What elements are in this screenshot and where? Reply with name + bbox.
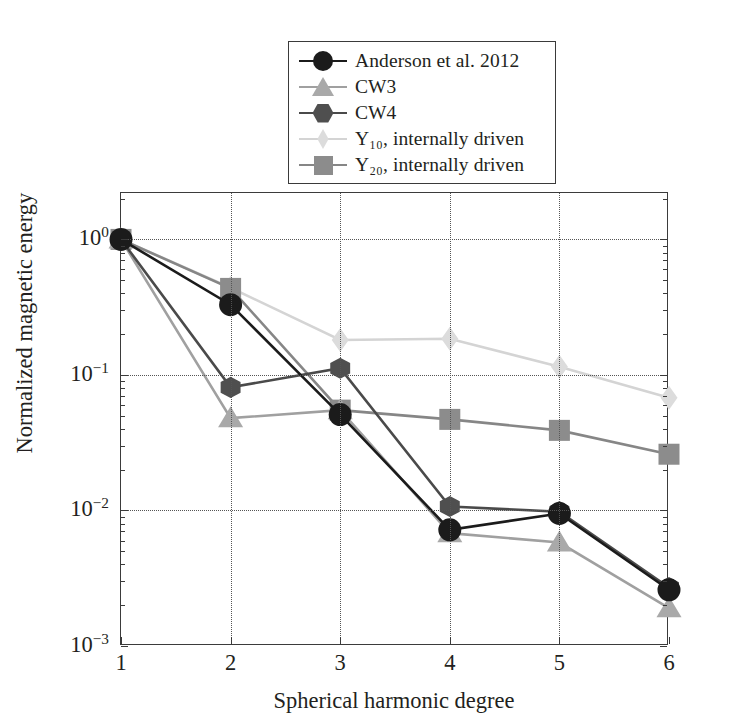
y-axis-minor-tick <box>121 199 125 200</box>
y-gridline <box>121 375 667 376</box>
y-axis-minor-tick <box>663 310 667 311</box>
x-gridline <box>340 193 341 644</box>
y-axis-minor-tick <box>663 405 667 406</box>
y-gridline <box>121 510 667 511</box>
y-axis-minor-tick <box>663 246 667 247</box>
plot-inner: 12345610010−110−210−3 <box>121 193 667 644</box>
legend-item-cw3: CW3 <box>297 74 545 100</box>
y-axis-minor-tick <box>121 541 125 542</box>
legend-label: CW4 <box>355 102 396 124</box>
y-axis-minor-tick <box>663 581 667 582</box>
y-axis-minor-tick <box>121 246 125 247</box>
y-axis-minor-tick <box>121 605 125 606</box>
y-axis-tick-label: 10−2 <box>31 494 109 522</box>
x-axis-tick <box>121 637 122 644</box>
y-axis-minor-tick <box>663 605 667 606</box>
y-axis-minor-tick <box>121 581 125 582</box>
y-axis-minor-tick <box>121 531 125 532</box>
circle-data-marker <box>658 578 681 601</box>
y-axis-minor-tick <box>121 429 125 430</box>
data-series-layer <box>121 193 669 646</box>
y-axis-tick <box>121 646 128 647</box>
diamond-data-marker <box>661 386 678 410</box>
y-axis-tick-label: 10−1 <box>31 359 109 387</box>
y-axis-tick <box>660 375 667 376</box>
y-axis-minor-tick <box>121 388 125 389</box>
y-axis-minor-tick <box>663 429 667 430</box>
y-axis-minor-tick <box>121 260 125 261</box>
x-axis-tick <box>669 637 670 644</box>
x-axis-tick-label: 2 <box>211 650 251 676</box>
y-axis-minor-tick <box>663 381 667 382</box>
x-axis-tick <box>340 637 341 644</box>
chart-legend: Anderson et al. 2012 CW3 CW4 Y₁₀, intern… <box>288 41 556 184</box>
triangle-marker-icon <box>297 76 349 98</box>
y-axis-minor-tick <box>121 269 125 270</box>
legend-label: CW3 <box>355 76 396 98</box>
x-gridline <box>559 193 560 644</box>
y-axis-minor-tick <box>121 524 125 525</box>
legend-label: Y₁₀, internally driven <box>355 128 524 150</box>
y-axis-minor-tick <box>121 396 125 397</box>
y-axis-minor-tick <box>663 517 667 518</box>
series-3 <box>113 227 678 409</box>
y-gridline <box>121 239 667 240</box>
x-gridline <box>450 193 451 644</box>
y-axis-minor-tick <box>663 334 667 335</box>
y-axis-minor-tick <box>663 564 667 565</box>
y-axis-minor-tick <box>121 517 125 518</box>
y-axis-minor-tick <box>121 564 125 565</box>
y-axis-minor-tick <box>663 260 667 261</box>
square-data-marker <box>659 444 680 465</box>
x-axis-tick <box>559 637 560 644</box>
y-axis-minor-tick <box>121 416 125 417</box>
y-axis-tick <box>121 375 128 376</box>
y-axis-minor-tick <box>663 416 667 417</box>
y-axis-minor-tick <box>663 551 667 552</box>
y-axis-tick-label: 10−3 <box>31 630 109 658</box>
y-axis-minor-tick <box>663 388 667 389</box>
y-axis-tick-label: 100 <box>31 223 109 251</box>
y-axis-minor-tick <box>663 470 667 471</box>
y-axis-minor-tick <box>663 541 667 542</box>
y-axis-minor-tick <box>663 199 667 200</box>
y-axis-minor-tick <box>663 524 667 525</box>
x-axis-tick-label: 4 <box>430 650 470 676</box>
hexagon-marker-icon <box>297 102 349 124</box>
legend-item-anderson: Anderson et al. 2012 <box>297 48 545 74</box>
y-axis-minor-tick <box>121 334 125 335</box>
figure-root: Anderson et al. 2012 CW3 CW4 Y₁₀, intern… <box>0 0 753 724</box>
y-axis-minor-tick <box>121 253 125 254</box>
y-axis-tick <box>660 646 667 647</box>
y-axis-minor-tick <box>121 310 125 311</box>
series-4 <box>111 229 680 465</box>
series-1 <box>109 227 682 617</box>
y-axis-tick <box>121 510 128 511</box>
y-axis-minor-tick <box>121 470 125 471</box>
y-axis-tick <box>121 239 128 240</box>
x-axis-tick-label: 3 <box>320 650 360 676</box>
y-axis-tick <box>660 510 667 511</box>
series-line <box>121 239 669 608</box>
y-axis-minor-tick <box>663 531 667 532</box>
y-axis-minor-tick <box>663 269 667 270</box>
y-axis-title: Normalized magnetic energy <box>12 93 38 553</box>
legend-item-y10: Y₁₀, internally driven <box>297 126 545 152</box>
legend-item-y20: Y₂₀, internally driven <box>297 152 545 178</box>
y-axis-minor-tick <box>121 405 125 406</box>
plot-area: 12345610010−110−210−3 <box>120 192 668 645</box>
x-axis-tick-label: 5 <box>539 650 579 676</box>
y-axis-minor-tick <box>121 551 125 552</box>
y-axis-tick <box>660 239 667 240</box>
y-axis-minor-tick <box>663 293 667 294</box>
y-axis-minor-tick <box>663 253 667 254</box>
square-marker-icon <box>297 154 349 176</box>
x-axis-tick-label: 6 <box>649 650 689 676</box>
x-axis-tick <box>450 637 451 644</box>
y-axis-minor-tick <box>121 280 125 281</box>
legend-label: Y₂₀, internally driven <box>355 154 524 176</box>
x-axis-title: Spherical harmonic degree <box>120 688 668 714</box>
x-axis-tick <box>231 637 232 644</box>
series-line <box>121 239 669 454</box>
y-axis-minor-tick <box>121 446 125 447</box>
